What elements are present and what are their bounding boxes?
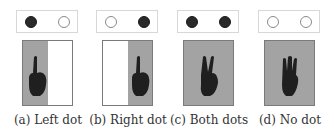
right-dot-empty: [300, 16, 312, 28]
left-dot-filled: [25, 16, 37, 28]
left-dot-filled: [186, 16, 198, 28]
panel-both-dots: (c) Both dots: [177, 0, 257, 137]
dot-indicator-box: [177, 10, 239, 33]
caption: (b) Right dot: [88, 113, 168, 127]
dot-indicator-box: [16, 10, 78, 33]
caption: (a) Left dot: [8, 113, 88, 127]
one-finger-hand-icon: [28, 55, 48, 97]
two-finger-hand-icon: [199, 55, 221, 97]
three-finger-hand-icon: [280, 55, 302, 97]
panel-left-dot: (a) Left dot: [16, 0, 96, 137]
gesture-screen: [264, 40, 315, 106]
right-dot-empty: [58, 16, 70, 28]
caption: (c) Both dots: [169, 113, 249, 127]
one-finger-hand-icon: [131, 55, 151, 97]
caption: (d) No dot: [250, 113, 330, 127]
dot-indicator-box: [258, 10, 320, 33]
gesture-screen: [102, 40, 153, 106]
left-dot-empty: [105, 16, 117, 28]
screen-left-half: [103, 41, 128, 105]
right-dot-filled: [138, 16, 150, 28]
gesture-screen: [22, 40, 73, 106]
dot-indicator-box: [96, 10, 158, 33]
right-dot-filled: [219, 16, 231, 28]
screen-right-half: [48, 41, 73, 105]
panel-right-dot: (b) Right dot: [96, 0, 176, 137]
gesture-screen: [183, 40, 234, 106]
left-dot-empty: [267, 16, 279, 28]
panel-no-dot: (d) No dot: [258, 0, 334, 137]
